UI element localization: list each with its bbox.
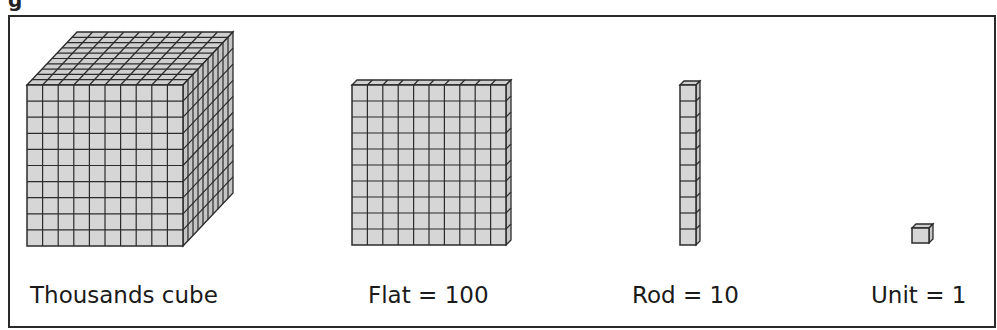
rod-block	[680, 81, 700, 245]
unit-label: Unit = 1	[871, 282, 966, 308]
flat-label: Flat = 100	[368, 282, 489, 308]
thousands-cube-label: Thousands cube	[30, 282, 218, 308]
flat-block	[352, 80, 511, 245]
base-ten-blocks-diagram	[0, 0, 997, 330]
rod-label: Rod = 10	[632, 282, 739, 308]
unit-block	[912, 224, 933, 243]
thousands-block	[27, 32, 233, 246]
